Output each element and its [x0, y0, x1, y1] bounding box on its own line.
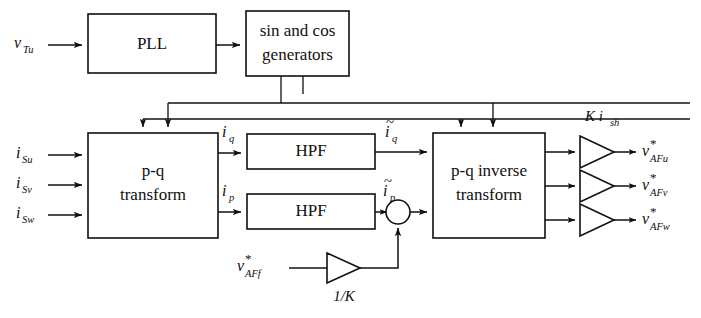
gain-triangle-kish-w	[580, 204, 614, 236]
gain-triangle-1overk	[327, 253, 360, 283]
label-output-vafw: v * AFw	[642, 204, 670, 232]
svg-text:AFw: AFw	[649, 221, 670, 232]
star-vafv: *	[650, 170, 657, 185]
block-pll: PLL	[88, 14, 216, 73]
svg-text:Sw: Sw	[22, 214, 34, 225]
label-output-vafu: v * AFu	[642, 136, 668, 164]
label-signal-ip-tilde: ~ i p	[383, 173, 395, 203]
block-hpf-q-label: HPF	[295, 141, 326, 160]
block-pq-label-line1: p-q	[142, 161, 165, 180]
block-hpf-q: HPF	[247, 134, 375, 169]
block-sin-cos-label-line1: sin and cos	[260, 21, 336, 40]
label-input-isu: i Su	[16, 144, 33, 165]
figure-container: PLL sin and cos generators p-q transform…	[0, 0, 701, 318]
svg-text:v: v	[14, 34, 22, 51]
label-output-vafv: v * AFv	[642, 170, 668, 198]
label-gain-kish: K i sh	[584, 108, 619, 128]
summing-junction	[386, 200, 410, 224]
svg-text:Tu: Tu	[23, 44, 34, 55]
svg-text:i: i	[16, 204, 20, 221]
svg-text:AFv: AFv	[649, 187, 668, 198]
svg-text:i: i	[222, 182, 226, 199]
label-signal-iq: i q	[222, 123, 234, 144]
svg-text:q: q	[392, 133, 397, 144]
block-sin-cos-generators: sin and cos generators	[246, 11, 349, 76]
svg-text:i: i	[16, 144, 20, 161]
star-vafw: *	[650, 204, 657, 219]
star-vafu: *	[650, 136, 657, 151]
svg-text:Su: Su	[22, 154, 33, 165]
gain-triangle-kish-u	[580, 136, 614, 168]
block-pq-inverse-transform: p-q inverse transform	[433, 133, 545, 238]
svg-text:Sv: Sv	[22, 184, 32, 195]
svg-text:p: p	[228, 192, 234, 203]
svg-text:AFf: AFf	[244, 268, 263, 279]
svg-text:i: i	[385, 123, 389, 140]
block-pq-transform: p-q transform	[88, 133, 218, 238]
svg-text:v: v	[642, 210, 650, 227]
gain-triangle-kish-v	[580, 170, 614, 202]
label-input-isw: i Sw	[16, 204, 34, 225]
block-pq-inverse-label-line1: p-q inverse	[451, 161, 527, 180]
svg-text:q: q	[229, 133, 234, 144]
svg-text:p: p	[389, 192, 395, 203]
svg-text:K i: K i	[584, 108, 603, 124]
svg-text:i: i	[16, 174, 20, 191]
label-input-isv: i Sv	[16, 174, 32, 195]
block-hpf-p: HPF	[247, 194, 375, 229]
block-pq-label-line2: transform	[120, 185, 186, 204]
label-gain-1overk: 1/K	[333, 288, 356, 304]
block-hpf-p-label: HPF	[295, 201, 326, 220]
star-vaff: *	[245, 251, 252, 266]
svg-text:sh: sh	[610, 117, 619, 128]
svg-text:v: v	[642, 142, 650, 159]
label-input-vaff: v * AFf	[237, 251, 263, 279]
label-signal-ip: i p	[222, 182, 234, 203]
svg-text:i: i	[383, 182, 387, 199]
block-pq-inverse-label-line2: transform	[456, 185, 522, 204]
svg-text:AFu: AFu	[649, 153, 668, 164]
svg-text:v: v	[237, 257, 245, 274]
wire-sincos-bus	[143, 76, 690, 127]
block-diagram: PLL sin and cos generators p-q transform…	[0, 0, 701, 318]
block-pll-label: PLL	[137, 34, 167, 53]
svg-text:i: i	[222, 123, 226, 140]
block-sin-cos-label-line2: generators	[262, 45, 333, 64]
wire-gain-to-sum	[360, 228, 398, 268]
svg-text:v: v	[642, 176, 650, 193]
label-input-vtu: v Tu	[14, 34, 34, 55]
